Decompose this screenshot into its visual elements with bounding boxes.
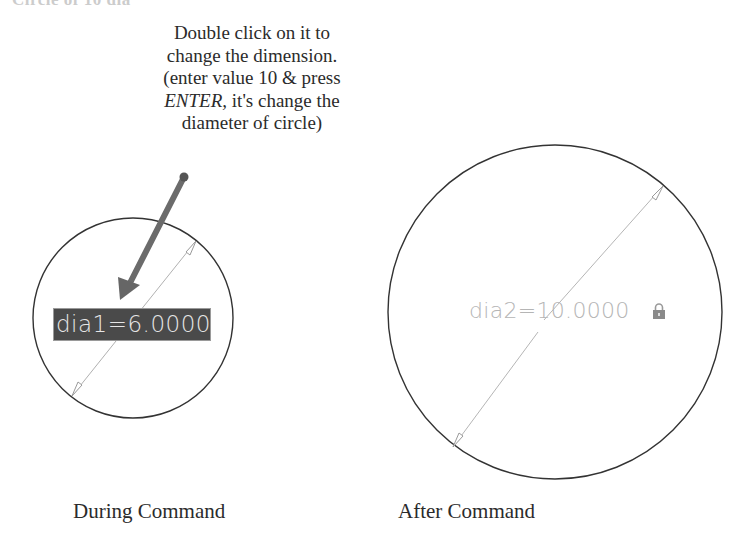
caption-during-command: During Command xyxy=(73,499,225,524)
pointer-arrow-icon xyxy=(118,173,189,301)
caption-after-command: After Command xyxy=(398,499,535,524)
dimension-label-after[interactable]: dia2=10.0000 xyxy=(469,298,630,323)
lock-icon xyxy=(652,303,666,319)
dimension-edit-field[interactable]: dia1=6.0000 xyxy=(53,308,211,341)
drawing-canvas xyxy=(0,0,746,545)
